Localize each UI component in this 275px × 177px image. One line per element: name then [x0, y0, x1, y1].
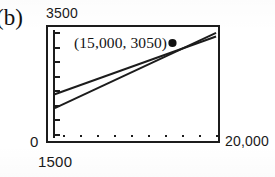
- y-axis-max-label: 3500: [46, 6, 78, 20]
- figure-panel: (b) 3500 0 20,000 1500 (15,000, 3050): [0, 0, 275, 177]
- intersection-point-marker: [168, 39, 176, 47]
- x-axis-min-label: 1500: [38, 154, 72, 169]
- point-annotation-label: (15,000, 3050): [74, 35, 167, 51]
- x-axis-max-label: 20,000: [225, 134, 269, 148]
- panel-label: (b): [0, 6, 23, 29]
- y-axis-min-label: 0: [30, 134, 38, 149]
